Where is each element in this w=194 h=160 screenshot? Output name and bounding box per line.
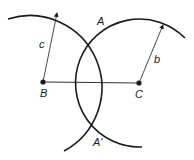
label-a-prime: A': [92, 136, 103, 148]
label-radius-b: b: [154, 53, 160, 65]
point-b: [40, 79, 45, 84]
label-a: A: [96, 15, 104, 27]
arc-around-b: [8, 16, 102, 151]
label-b-point: B: [40, 87, 47, 99]
point-c: [136, 80, 141, 85]
construction-diagram: A A' B C c b: [0, 0, 194, 160]
label-c-point: C: [135, 88, 143, 100]
radius-c-arrow: [43, 13, 57, 82]
segment-bc: [43, 82, 139, 83]
label-radius-c: c: [39, 38, 45, 50]
